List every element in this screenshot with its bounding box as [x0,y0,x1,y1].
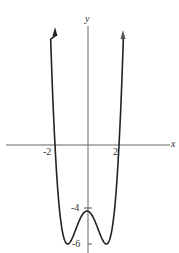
function-curve [51,36,124,244]
x-axis-label: x [171,139,175,149]
x-tick-label-neg2: -2 [43,147,51,157]
right-arrow-icon [121,30,126,39]
left-arrow-icon [53,27,58,36]
y-tick-label-neg6: -6 [72,239,80,249]
y-axis-label: y [85,14,89,24]
x-tick-label-2: 2 [113,147,118,157]
function-graph [0,0,179,253]
y-tick-label-neg4: -4 [71,203,79,213]
